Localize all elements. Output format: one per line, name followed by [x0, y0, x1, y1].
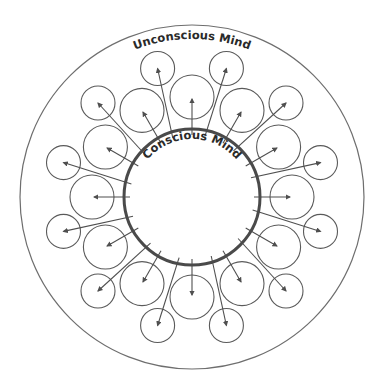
thought-arrows	[64, 69, 321, 326]
large-thought-bubble	[257, 225, 301, 269]
unconscious-mind-label: Unconscious Mind	[131, 28, 253, 53]
arrow-to-small-bubble	[64, 163, 132, 185]
large-thought-bubble	[220, 88, 264, 132]
arrow-to-small-bubble	[234, 103, 287, 151]
arrow-to-small-bubble	[98, 243, 151, 291]
arrow-to-small-bubble	[98, 103, 146, 156]
arrow-to-small-bubble	[238, 239, 286, 292]
arrow-to-small-bubble	[205, 69, 227, 137]
unconscious-mind-label-path: Unconscious Mind	[131, 28, 253, 53]
large-thought-bubble	[83, 125, 127, 169]
conscious-unconscious-diagram: Unconscious Mind Conscious Mind	[0, 0, 388, 386]
thought-bubbles	[47, 52, 338, 343]
large-thought-bubble	[120, 88, 164, 132]
large-thought-bubble	[220, 262, 264, 306]
large-thought-bubble	[120, 262, 164, 306]
large-thought-bubble	[83, 225, 127, 269]
arrow-to-small-bubble	[253, 210, 321, 232]
arrow-to-small-bubble	[158, 258, 180, 326]
unconscious-mind-boundary	[20, 25, 364, 369]
large-thought-bubble	[257, 125, 301, 169]
